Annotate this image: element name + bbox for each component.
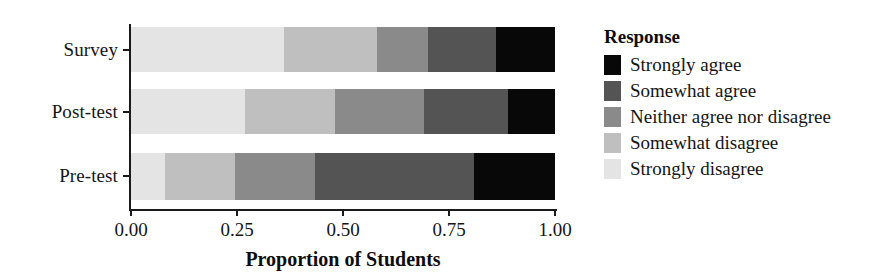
stacked-bar-chart-figure: Survey Post-test Pre-test [0,0,885,277]
x-tick-mark [554,210,556,216]
bar-segment-strongly-disagree[interactable] [131,89,245,134]
bar-segment-strongly-agree[interactable] [496,27,555,72]
x-tick-label-2: 0.50 [326,220,359,240]
bar-segment-somewhat-agree[interactable] [428,27,496,72]
legend-swatch-neither-agree-nor-disagree [604,107,621,127]
legend-item-strongly-disagree[interactable]: Strongly disagree [604,156,885,182]
y-tick-label-pre-test: Pre-test [8,166,118,186]
bar-segment-strongly-disagree[interactable] [131,153,165,200]
x-tick-mark [448,210,450,216]
x-tick-label-1: 0.25 [220,220,253,240]
bar-segment-somewhat-disagree[interactable] [165,153,235,200]
bar-post-test[interactable] [131,89,555,134]
y-tick-mark [123,111,129,113]
bar-segment-neither-agree-nor-disagree[interactable] [377,27,428,72]
x-tick-mark [236,210,238,216]
legend-label-strongly-disagree: Strongly disagree [630,158,764,180]
y-tick-mark [123,49,129,51]
legend-swatch-somewhat-agree [604,81,621,101]
bar-segment-strongly-disagree[interactable] [131,27,284,72]
legend-swatch-somewhat-disagree [604,133,621,153]
legend-label-neither-agree-nor-disagree: Neither agree nor disagree [630,106,831,128]
legend-swatch-strongly-agree [604,55,621,75]
x-tick-mark [130,210,132,216]
bar-segment-strongly-agree[interactable] [508,89,555,134]
legend-label-somewhat-agree: Somewhat agree [630,80,756,102]
bar-survey[interactable] [131,27,555,72]
bar-pre-test[interactable] [131,153,555,200]
plot-area: Survey Post-test Pre-test [0,0,600,277]
bar-segment-somewhat-agree[interactable] [424,89,509,134]
legend-swatch-strongly-disagree [604,159,621,179]
bar-segment-somewhat-agree[interactable] [315,153,474,200]
x-tick-label-3: 0.75 [432,220,465,240]
bar-segment-neither-agree-nor-disagree[interactable] [235,153,316,200]
bar-segment-somewhat-disagree[interactable] [284,27,377,72]
legend-title: Response [604,26,885,48]
y-tick-label-post-test: Post-test [8,102,118,122]
x-tick-mark [342,210,344,216]
x-tick-label-4: 1.00 [538,220,571,240]
legend-item-neither-agree-nor-disagree[interactable]: Neither agree nor disagree [604,104,885,130]
y-tick-mark [123,175,129,177]
legend-item-strongly-agree[interactable]: Strongly agree [604,52,885,78]
x-tick-label-0: 0.00 [114,220,147,240]
legend-item-somewhat-agree[interactable]: Somewhat agree [604,78,885,104]
legend: Response Strongly agree Somewhat agree N… [600,26,885,182]
y-tick-label-survey: Survey [8,40,118,60]
x-axis-title: Proportion of Students [129,248,557,271]
legend-label-strongly-agree: Strongly agree [630,54,741,76]
bar-segment-neither-agree-nor-disagree[interactable] [335,89,424,134]
bar-segment-somewhat-disagree[interactable] [245,89,334,134]
legend-item-somewhat-disagree[interactable]: Somewhat disagree [604,130,885,156]
legend-label-somewhat-disagree: Somewhat disagree [630,132,778,154]
bar-segment-strongly-agree[interactable] [474,153,555,200]
